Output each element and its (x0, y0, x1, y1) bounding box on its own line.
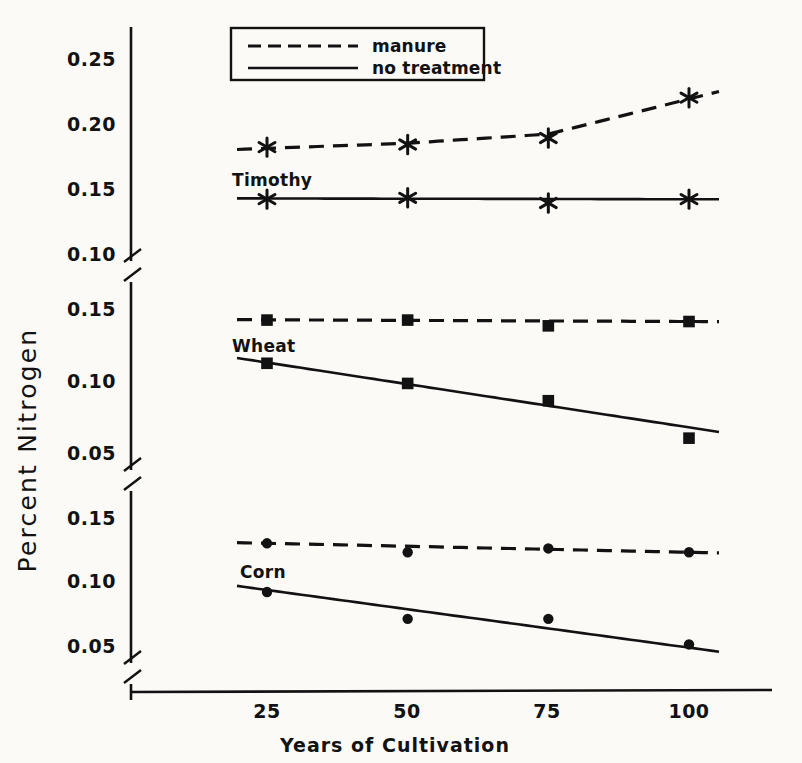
y-tick-corn-1: 0.10 (67, 570, 116, 592)
y-tick-timothy-2: 0.15 (67, 178, 116, 200)
legend-label-manure: manure (372, 36, 447, 56)
y-tick-timothy-0: 0.25 (67, 48, 116, 70)
trend-line-dashed (237, 92, 719, 150)
y-tick-corn-2: 0.05 (67, 635, 116, 657)
panel-corn (237, 538, 719, 652)
series-wheat-no-treatment (237, 357, 719, 443)
legend: manure no treatment (231, 28, 501, 80)
panel-label-timothy: Timothy (232, 170, 312, 190)
x-axis-line (131, 690, 772, 692)
data-point (402, 378, 414, 390)
data-point (402, 614, 412, 624)
series-corn-manure (237, 538, 719, 557)
data-point (683, 432, 695, 444)
axis-break-mark (124, 670, 141, 683)
x-tick-1: 50 (393, 700, 420, 722)
nitrogen-figure: Percent Nitrogen 0.25 0.20 0.15 (0, 0, 802, 763)
panel-label-corn: Corn (240, 562, 286, 582)
legend-label-no-treatment: no treatment (372, 58, 501, 78)
x-axis-title: Years of Cultivation (279, 734, 510, 756)
axis-break-mark (124, 477, 141, 490)
trend-line-solid (237, 198, 719, 199)
data-point (543, 543, 553, 553)
data-point (262, 538, 272, 548)
axis-break-mark (124, 268, 141, 281)
y-tick-wheat-0: 0.15 (67, 298, 116, 320)
data-point (262, 587, 272, 597)
x-axis (131, 690, 772, 692)
data-point (543, 320, 555, 332)
series-timothy-manure (237, 89, 719, 157)
data-point (543, 614, 553, 624)
y-axis (124, 27, 141, 700)
data-point (684, 547, 694, 557)
series-wheat-manure (237, 314, 719, 331)
data-point (402, 547, 412, 557)
y-tick-wheat-1: 0.10 (67, 370, 116, 392)
data-point (683, 316, 695, 328)
y-axis-title: Percent Nitrogen (13, 328, 42, 573)
trend-line-solid (237, 358, 719, 432)
x-tick-3: 100 (668, 700, 709, 722)
panel-label-wheat: Wheat (232, 336, 295, 356)
trend-line-dashed (237, 543, 719, 553)
data-point (543, 395, 555, 407)
panel-wheat (237, 314, 719, 444)
y-tick-timothy-1: 0.20 (67, 113, 116, 135)
data-point (400, 135, 416, 153)
x-tick-2: 75 (533, 700, 560, 722)
y-tick-timothy-3: 0.10 (67, 243, 116, 265)
data-point (261, 314, 273, 326)
x-tick-0: 25 (253, 700, 280, 722)
series-corn-no-treatment (237, 586, 719, 652)
y-tick-wheat-2: 0.05 (67, 442, 116, 464)
data-point (261, 357, 273, 369)
data-point (684, 639, 694, 649)
axis-break-mark (124, 458, 141, 471)
axis-break-mark (124, 249, 141, 262)
axis-break-mark (124, 651, 141, 664)
data-point (402, 314, 414, 326)
data-point (540, 194, 556, 212)
panel-timothy (237, 89, 719, 213)
chart-canvas: Percent Nitrogen 0.25 0.20 0.15 (0, 0, 802, 763)
trend-line-solid (237, 586, 719, 652)
series-timothy-no-treatment (237, 189, 719, 213)
trend-line-dashed (237, 320, 719, 322)
y-tick-corn-0: 0.15 (67, 507, 116, 529)
